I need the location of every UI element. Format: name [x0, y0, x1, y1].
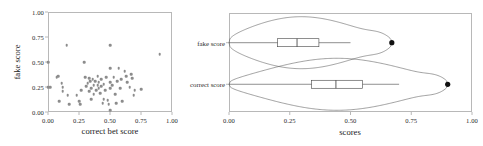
scatter-y-tick-label: 0.00 [22, 109, 44, 116]
scatter-tick-layer [0, 0, 190, 146]
scatter-point [126, 81, 129, 84]
scatter-point [93, 93, 96, 96]
scatter-point [62, 90, 65, 93]
scatter-point [112, 76, 115, 79]
scatter-point [101, 102, 104, 105]
scatter-point [125, 75, 128, 78]
scatter-y-tick-label: 0.50 [22, 59, 44, 66]
scatter-y-tick-label: 1.00 [22, 9, 44, 16]
scatter-point [49, 86, 52, 89]
scatter-point [90, 98, 93, 101]
scatter-point [68, 103, 71, 106]
scatter-point [93, 84, 96, 87]
scatter-y-tick-label: 0.25 [22, 84, 44, 91]
scatter-point [140, 88, 143, 91]
scatter-point [129, 86, 132, 89]
scatter-point [65, 44, 68, 47]
scatter-point [96, 75, 99, 78]
scatter-point [84, 76, 87, 79]
scatter-x-tick-label: 0.75 [135, 117, 147, 124]
scatter-point [83, 61, 86, 64]
scatter-point [109, 44, 112, 47]
scatter-y-tick-label: 0.75 [22, 34, 44, 41]
scatter-point [121, 100, 124, 103]
scatter-point [58, 100, 61, 103]
scatter-point [120, 78, 123, 81]
scatter-y-axis-title: fake score [12, 44, 22, 79]
scatter-point [158, 53, 161, 56]
scatter-point [62, 86, 65, 89]
scatter-panel: 0.000.250.500.751.00 0.000.250.500.751.0… [0, 0, 190, 146]
scatter-point [99, 92, 102, 95]
scatter-point [111, 84, 114, 87]
scatter-point [88, 90, 91, 93]
scatter-point [109, 109, 112, 112]
scatter-point [107, 103, 110, 106]
scatter-point [94, 80, 97, 83]
scatter-point [100, 78, 103, 81]
violin-plot-layer [190, 0, 483, 146]
scatter-point [130, 73, 133, 76]
scatter-point [79, 103, 82, 106]
violin-outlier-point [445, 82, 450, 87]
scatter-point [124, 70, 127, 73]
scatter-point [98, 81, 101, 84]
scatter-point [47, 61, 50, 64]
scatter-x-tick-label: 0.00 [42, 117, 54, 124]
violin-box [312, 80, 363, 88]
scatter-point [67, 94, 70, 97]
scatter-point [114, 93, 117, 96]
scatter-x-tick-label: 1.00 [166, 117, 178, 124]
scatter-x-tick-label: 0.50 [104, 117, 116, 124]
scatter-point [57, 75, 60, 78]
scatter-point [132, 94, 135, 97]
scatter-point [105, 76, 108, 79]
violin-outlier-point [389, 40, 394, 45]
scatter-point [104, 89, 107, 92]
figure-canvas: 0.000.250.500.751.00 0.000.250.500.751.0… [0, 0, 483, 146]
scatter-point [134, 89, 137, 92]
scatter-point [117, 67, 120, 70]
scatter-point [106, 99, 109, 102]
violin-box [278, 39, 319, 47]
scatter-point [75, 94, 78, 97]
scatter-point [109, 87, 112, 90]
scatter-point [115, 102, 118, 105]
scatter-point [109, 67, 112, 70]
scatter-point [103, 83, 106, 86]
scatter-point [131, 77, 134, 80]
scatter-point [80, 89, 83, 92]
scatter-point [90, 87, 93, 90]
scatter-x-tick-label: 0.25 [73, 117, 85, 124]
violin-panel: 0.000.250.500.751.00 fake scorecorrect s… [190, 0, 483, 146]
scatter-x-axis-title: correct bet score [82, 126, 139, 136]
scatter-point [103, 98, 106, 101]
scatter-point [116, 80, 119, 83]
scatter-point [119, 87, 122, 90]
scatter-point [85, 85, 88, 88]
scatter-point [60, 82, 63, 85]
